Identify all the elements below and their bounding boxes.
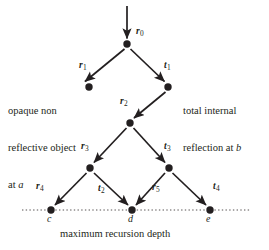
annotation-right-line1: total internal xyxy=(183,105,241,117)
point-label-d: d xyxy=(128,213,133,225)
node-t1 xyxy=(164,83,171,90)
ray-label-r1: r1 xyxy=(79,60,86,71)
node-r2 xyxy=(126,119,133,126)
point-b-italic: b xyxy=(236,142,241,153)
ray-label-t1: t1 xyxy=(164,60,170,71)
annotation-right-line2: reflection at b xyxy=(183,142,241,154)
annotation-left: opaque non reflective object at a xyxy=(8,80,76,216)
node-r3 xyxy=(86,164,93,171)
ray-label-t2: t2 xyxy=(98,183,104,194)
edge-r2-to-r3 xyxy=(94,128,127,163)
annotation-left-line2: reflective object xyxy=(8,142,76,154)
figure-caption: maximum recursion depth xyxy=(60,228,170,240)
edge-r0-to-r1 xyxy=(85,49,125,82)
ray-label-r5: r5 xyxy=(152,182,159,193)
annotation-right: total internal reflection at b xyxy=(183,80,241,179)
ray-label-t4: t4 xyxy=(213,181,219,192)
node-t3 xyxy=(165,164,172,171)
ray-label-r2: r2 xyxy=(120,96,127,107)
node-r1 xyxy=(85,83,92,90)
ray-label-t3: t3 xyxy=(164,141,170,152)
edge-r2-to-t3 xyxy=(134,128,166,163)
annotation-left-line3: at a xyxy=(8,179,76,191)
ray-label-r3: r3 xyxy=(81,141,88,152)
edge-t3-to-d xyxy=(136,173,165,205)
point-label-e: e xyxy=(206,213,210,225)
ray-tree-figure: r0 r1 t1 r2 r3 t3 r4 t2 r5 t4 c d e opaq… xyxy=(0,0,269,250)
edge-t1-to-r2 xyxy=(134,92,166,118)
ray-label-r0: r0 xyxy=(136,26,143,37)
point-a-italic: a xyxy=(18,179,23,190)
node-r0 xyxy=(123,40,130,47)
edge-r0-to-t1 xyxy=(131,49,165,82)
annotation-left-line1: opaque non xyxy=(8,105,76,117)
